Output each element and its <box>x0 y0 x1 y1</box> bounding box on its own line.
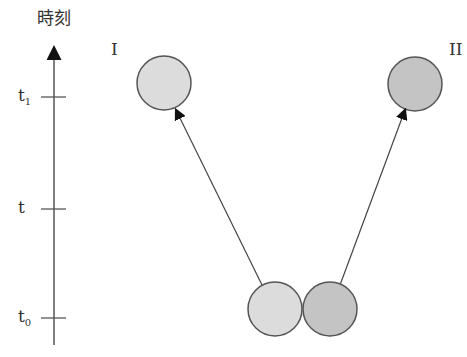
diagram-canvas <box>0 0 467 357</box>
ball-one-final <box>137 56 191 110</box>
ball-one-label: I <box>111 41 118 58</box>
trajectory-arrow-two <box>340 110 405 285</box>
time-axis <box>41 48 66 345</box>
tick-label-t1: t1 <box>18 87 31 107</box>
ball-two-label: II <box>449 41 462 58</box>
ball-two-final <box>388 57 442 111</box>
ball-two-initial <box>303 282 357 336</box>
ball-one-initial <box>248 282 302 336</box>
axis-title: 時刻 <box>37 10 71 27</box>
tick-label-t0: t0 <box>18 308 31 328</box>
tick-label-t: t <box>18 199 25 216</box>
trajectory-arrow-one <box>176 110 262 285</box>
